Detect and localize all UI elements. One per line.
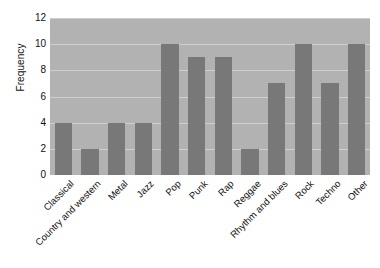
bars-group: [50, 18, 370, 175]
bar: [188, 57, 205, 175]
y-axis-tick-label: 8: [24, 65, 46, 75]
x-axis-tick-labels: ClassicalCountry and westernMetalJazzPop…: [50, 175, 370, 268]
bar: [268, 83, 285, 175]
plot-area: [50, 18, 370, 175]
bar: [55, 123, 72, 175]
y-axis-tick-labels: 024681012: [24, 18, 46, 175]
bar: [348, 44, 365, 175]
bar: [135, 123, 152, 175]
y-axis-tick-label: 12: [24, 13, 46, 23]
bar: [81, 149, 98, 175]
bar: [161, 44, 178, 175]
y-axis-tick-label: 2: [24, 144, 46, 154]
bar: [108, 123, 125, 175]
y-axis-tick-label: 10: [24, 39, 46, 49]
bar: [215, 57, 232, 175]
y-axis-tick-label: 0: [24, 170, 46, 180]
bar: [295, 44, 312, 175]
bar-chart: Frequency 024681012 ClassicalCountry and…: [0, 0, 380, 268]
y-axis-tick-label: 6: [24, 92, 46, 102]
bar: [321, 83, 338, 175]
y-axis-tick-label: 4: [24, 118, 46, 128]
bar: [241, 149, 258, 175]
